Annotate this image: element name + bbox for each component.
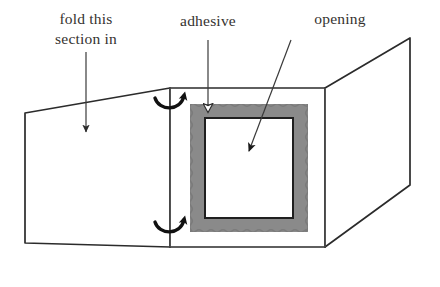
left-flap-panel (25, 88, 170, 247)
adhesive-band (190, 104, 310, 236)
envelope-folding-diagram: fold this section in adhesive opening (0, 0, 440, 287)
label-adhesive: adhesive (180, 12, 236, 29)
label-opening: opening (314, 10, 365, 27)
opening-area (205, 118, 293, 218)
right-flap-panel (325, 38, 410, 247)
label-fold-line2: section in (55, 30, 117, 47)
label-fold-line1: fold this (59, 10, 112, 27)
